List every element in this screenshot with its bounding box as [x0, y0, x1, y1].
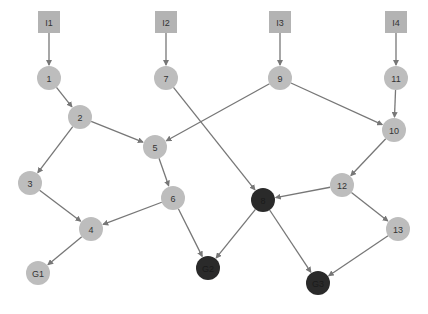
node-9[interactable]: 9: [268, 66, 292, 90]
node-label: 11: [391, 74, 400, 84]
node-label: 4: [88, 225, 93, 235]
node-4[interactable]: 4: [79, 217, 103, 241]
edge-5-to-6: [159, 158, 169, 185]
node-11[interactable]: 11: [384, 66, 408, 90]
edge-13-to-g3: [329, 236, 388, 276]
node-13[interactable]: 13: [386, 217, 410, 241]
edge-8-to-g2: [216, 209, 255, 258]
node-6[interactable]: 6: [161, 186, 185, 210]
edge-12-to-13: [351, 192, 387, 221]
edge-3-to-4: [40, 190, 81, 221]
node-label: G3: [312, 279, 324, 289]
node-12[interactable]: 12: [330, 173, 354, 197]
edge-2-to-5: [91, 121, 143, 142]
node-label: 9: [277, 74, 282, 84]
edge-9-to-5: [166, 84, 269, 141]
node-2[interactable]: 2: [68, 105, 92, 129]
node-7[interactable]: 7: [154, 66, 178, 90]
node-label: I3: [276, 18, 284, 28]
input-node-i2[interactable]: I2: [155, 11, 177, 33]
input-node-i3[interactable]: I3: [269, 11, 291, 33]
node-label: 5: [152, 143, 157, 153]
node-label: 2: [77, 113, 82, 123]
input-node-i4[interactable]: I4: [385, 11, 407, 33]
node-1[interactable]: 1: [37, 66, 61, 90]
edge-2-to-3: [38, 127, 73, 173]
node-8[interactable]: 8: [251, 188, 275, 212]
edge-10-to-12: [351, 139, 386, 176]
edge-6-to-4: [103, 202, 162, 224]
nodes-layer: I1I2I3I417911251036812413G1G2G3: [18, 11, 410, 295]
node-g1[interactable]: G1: [26, 261, 50, 285]
node-5[interactable]: 5: [143, 135, 167, 159]
edge-9-to-10: [291, 83, 382, 125]
node-label: G2: [202, 264, 214, 274]
node-label: 13: [393, 225, 403, 235]
edge-1-to-2: [56, 87, 71, 106]
node-label: I2: [162, 18, 170, 28]
directed-graph: I1I2I3I417911251036812413G1G2G3: [0, 0, 428, 314]
node-label: 1: [46, 74, 51, 84]
node-label: 8: [260, 196, 265, 206]
edge-6-to-g2: [178, 209, 202, 257]
node-label: 6: [170, 194, 175, 204]
node-label: G1: [32, 269, 44, 279]
edge-12-to-8: [276, 187, 330, 197]
node-3[interactable]: 3: [18, 171, 42, 195]
node-label: I4: [392, 18, 400, 28]
node-label: I1: [45, 18, 53, 28]
node-label: 12: [337, 181, 347, 191]
edge-8-to-g3: [270, 210, 311, 272]
edge-4-to-g1: [48, 237, 82, 265]
node-label: 7: [163, 74, 168, 84]
edge-11-to-10: [394, 90, 395, 117]
node-g2[interactable]: G2: [196, 256, 220, 280]
edge-7-to-8: [173, 87, 254, 189]
graph-canvas: I1I2I3I417911251036812413G1G2G3: [0, 0, 428, 314]
node-10[interactable]: 10: [382, 118, 406, 142]
node-g3[interactable]: G3: [306, 271, 330, 295]
node-label: 3: [27, 179, 32, 189]
node-label: 10: [389, 126, 399, 136]
input-node-i1[interactable]: I1: [38, 11, 60, 33]
